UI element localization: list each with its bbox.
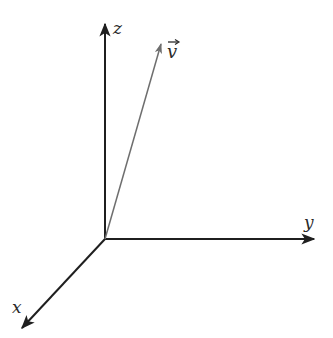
coordinate-diagram: z y x v [0, 0, 333, 338]
z-axis-label: z [112, 18, 123, 38]
y-axis-label: y [303, 212, 314, 232]
x-axis [22, 239, 105, 328]
vector-v [105, 44, 161, 239]
x-axis-label: x [12, 297, 22, 317]
